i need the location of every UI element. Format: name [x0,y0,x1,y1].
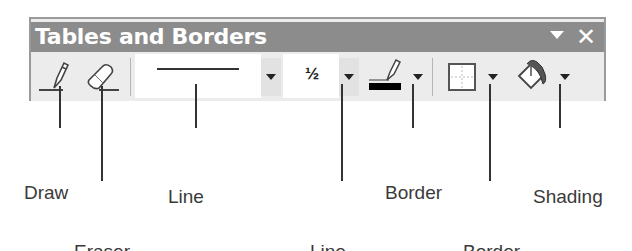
connector-border-color [412,84,414,128]
chevron-down-icon [488,74,498,80]
label-draw-table: Draw Table [24,128,69,251]
line-weight-dropdown[interactable]: ½ [283,54,339,98]
label-shading-color: Shading Color [533,132,603,251]
label-eraser: Eraser [74,187,130,251]
chevron-down-icon [266,74,276,80]
line-weight-value: ½ [305,64,319,84]
label-line-weight: Line Weight [310,187,369,251]
connector-border [489,84,491,181]
chevron-down-icon [344,74,354,80]
toolbar-titlebar[interactable]: Tables and Borders ✕ [31,22,604,52]
color-swatch [369,83,401,90]
connector-line-style [195,84,197,128]
chevron-down-icon [413,74,423,80]
draw-table-button[interactable] [37,58,73,96]
connector-eraser [101,86,103,181]
shading-color-button[interactable] [513,58,553,96]
border-color-pencil-icon [367,58,409,96]
label-border: Border [463,187,520,251]
label-line-style: Line Style [168,132,210,251]
close-icon[interactable]: ✕ [576,22,596,52]
line-style-dropdown[interactable] [135,54,261,98]
label-border-color: Border Color [385,128,442,251]
separator [432,58,433,96]
line-style-dropdown-arrow[interactable] [261,58,281,96]
tables-and-borders-toolbar: Tables and Borders ✕ [29,17,606,101]
toolbar-options-icon[interactable] [550,31,564,39]
connector-line-weight [341,84,343,181]
border-dropdown-arrow[interactable] [483,58,503,96]
connector-shading-color [559,84,561,128]
chevron-down-icon [560,74,570,80]
connector-draw-table [59,86,61,128]
pencil-icon [37,58,73,96]
toolbar-buttons-row: ½ [31,54,604,99]
shading-color-dropdown-arrow[interactable] [555,58,575,96]
outside-border-icon [443,58,483,96]
toolbar-title: Tables and Borders [35,24,267,49]
separator [130,58,131,96]
paint-bucket-icon [513,58,553,96]
border-color-button[interactable] [367,58,409,96]
solid-line-sample [157,68,239,70]
border-button[interactable] [443,58,483,96]
